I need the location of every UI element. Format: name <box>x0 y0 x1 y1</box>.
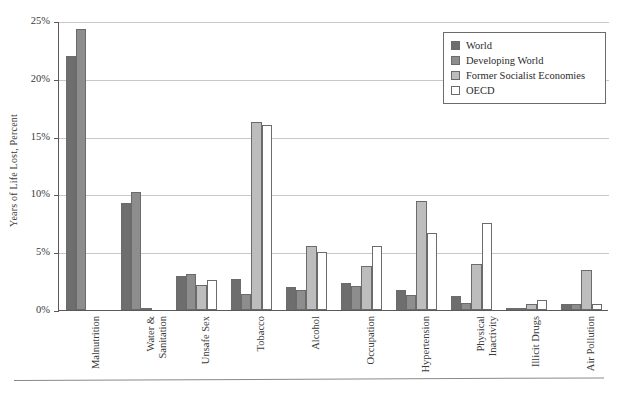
bar <box>196 285 206 310</box>
legend-swatch-icon <box>451 56 460 65</box>
bar <box>396 290 406 310</box>
x-tick-label: Occupation <box>365 316 377 364</box>
bar <box>66 56 76 310</box>
bar <box>262 125 272 310</box>
bar <box>561 304 571 310</box>
legend-item: OECD <box>451 83 599 98</box>
bar <box>207 280 217 310</box>
legend-label: OECD <box>466 85 495 96</box>
bar <box>406 295 416 310</box>
bar <box>427 233 437 310</box>
legend-swatch-icon <box>451 71 460 80</box>
y-tick-mark <box>54 195 59 196</box>
x-tick-label: PhysicalInactivity <box>475 316 498 356</box>
y-tick-label: 15% <box>31 131 50 142</box>
y-tick-mark <box>54 253 59 254</box>
bar-group <box>231 21 272 310</box>
y-tick-mark <box>54 22 59 23</box>
bar <box>306 246 316 310</box>
bar <box>372 246 382 310</box>
x-tick-label: Illicit Drugs <box>530 316 542 367</box>
bar <box>537 300 547 310</box>
x-tick-label: Tobacco <box>255 316 267 351</box>
bar <box>141 308 151 310</box>
y-axis-title: Years of Life Lost, Percent <box>8 96 24 246</box>
bar <box>581 270 591 310</box>
x-tick-label: Malnutrition <box>90 316 102 369</box>
legend-label: Developing World <box>466 55 543 66</box>
bar <box>341 283 351 310</box>
bar <box>461 303 471 310</box>
bar <box>361 266 371 310</box>
bar <box>296 290 306 310</box>
x-tick-label: Hypertension <box>420 316 432 373</box>
bar <box>251 122 261 310</box>
bar <box>241 294 251 310</box>
legend-swatch-icon <box>451 41 460 50</box>
bar <box>317 252 327 310</box>
bar <box>176 276 186 310</box>
footer-divider <box>14 377 604 381</box>
bar <box>121 203 131 311</box>
bar-group <box>176 21 217 310</box>
legend-item: Developing World <box>451 53 599 68</box>
legend-item: Former Socialist Economies <box>451 68 599 83</box>
legend-item: World <box>451 38 599 53</box>
legend-label: World <box>466 40 492 51</box>
y-tick-label: 25% <box>31 15 50 26</box>
bar <box>482 223 492 310</box>
y-tick-label: 20% <box>31 73 50 84</box>
bar <box>516 308 526 310</box>
y-tick-label: 0% <box>36 304 50 315</box>
legend-swatch-icon <box>451 86 460 95</box>
legend-label: Former Socialist Economies <box>466 70 585 81</box>
bar <box>471 264 481 310</box>
bar <box>526 304 536 310</box>
bar <box>506 308 516 310</box>
y-tick-label: 10% <box>31 188 50 199</box>
bar <box>451 296 461 310</box>
bar <box>416 201 426 310</box>
bar <box>231 279 241 310</box>
bar-group <box>66 21 107 310</box>
bar <box>131 192 141 310</box>
y-tick-mark <box>54 311 59 312</box>
bar <box>186 274 196 310</box>
bar-group <box>341 21 382 310</box>
bar <box>76 29 86 310</box>
y-tick-mark <box>54 80 59 81</box>
chart-figure: Years of Life Lost, Percent 0%5%10%15%20… <box>0 0 617 396</box>
bar-group <box>396 21 437 310</box>
bar-group <box>121 21 162 310</box>
x-tick-label: Water &Sanitation <box>145 316 168 359</box>
bar <box>351 286 361 310</box>
x-tick-label: Unsafe Sex <box>200 316 212 364</box>
bar <box>286 287 296 310</box>
x-tick-label: Air Pollution <box>585 316 597 371</box>
chart-legend: WorldDeveloping WorldFormer Socialist Ec… <box>443 32 606 104</box>
x-tick-label: Alcohol <box>310 316 322 350</box>
bar-group <box>286 21 327 310</box>
y-tick-mark <box>54 138 59 139</box>
bar <box>571 304 581 310</box>
y-tick-label: 5% <box>36 246 50 257</box>
bar <box>592 304 602 310</box>
